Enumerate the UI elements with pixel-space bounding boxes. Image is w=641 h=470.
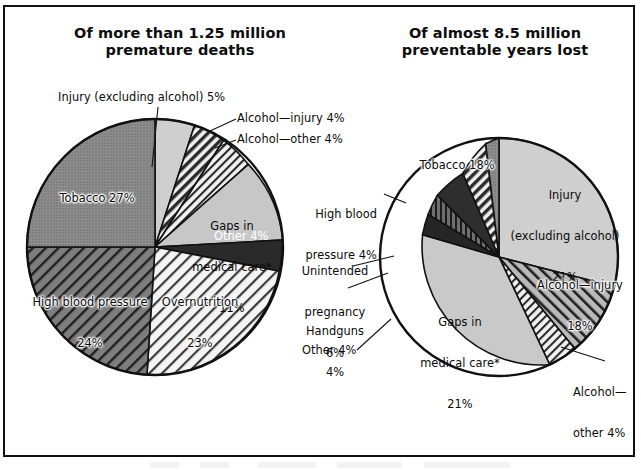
label-left-overnutrition: Overnutrition 23% [150, 269, 250, 378]
label-right-alcohol-other: Alcohol— other 4% [573, 359, 626, 468]
label-left-other: Other 4% [214, 230, 268, 244]
label-left-injury: Injury (excluding alcohol) 5% [58, 91, 225, 105]
label-left-tobacco: Tobacco 27% [43, 192, 151, 206]
label-left-high-blood-pressure: High blood pressure 24% [30, 269, 150, 378]
page-bottom-smudge [150, 462, 510, 468]
label-left-alcohol-injury: Alcohol—injury 4% [237, 112, 345, 126]
label-left-alcohol-other: Alcohol—other 4% [237, 133, 343, 147]
leader-line-left-alcohol-injury [210, 119, 236, 131]
figure-frame: Of more than 1.25 million premature deat… [3, 5, 635, 457]
label-right-tobacco: Tobacco 18% [405, 159, 509, 173]
label-right-alcohol-injury: Alcohol—injury 18% [525, 252, 635, 361]
slice-left-tobacco [27, 119, 155, 247]
label-right-gaps-medical-care: Gaps in medical care* 21% [405, 289, 515, 439]
label-right-high-blood-pressure: High blood pressure 4% [293, 181, 377, 290]
